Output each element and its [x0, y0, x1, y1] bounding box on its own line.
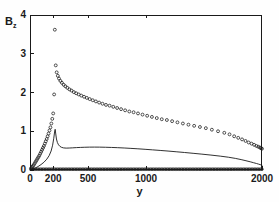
data-marker [88, 98, 91, 101]
data-line [30, 129, 262, 170]
data-marker [52, 112, 55, 115]
data-marker [132, 111, 135, 114]
y-tick-mark [30, 92, 34, 93]
data-marker [85, 96, 88, 99]
data-marker [146, 114, 149, 117]
data-marker [101, 102, 104, 105]
data-marker [53, 28, 56, 31]
data-marker [210, 128, 213, 131]
series-solid-line-lower [30, 129, 262, 170]
data-marker [116, 107, 119, 110]
y-tick-label: 4 [14, 10, 26, 20]
data-marker [150, 115, 153, 118]
x-tick-label: 1000 [135, 174, 157, 184]
data-marker [160, 118, 163, 121]
data-layer [0, 0, 279, 202]
data-marker [176, 121, 179, 124]
data-marker [155, 117, 158, 120]
data-marker [49, 126, 52, 129]
y-tick-label: 1 [14, 126, 26, 136]
data-marker [198, 126, 201, 129]
series-open-circles [29, 28, 263, 170]
x-tick-mark [146, 166, 147, 170]
data-marker [108, 104, 111, 107]
data-marker [50, 122, 53, 125]
data-marker [51, 117, 54, 120]
data-marker [53, 93, 56, 96]
x-tick-mark-top [53, 15, 54, 18]
data-marker [124, 109, 127, 112]
y-tick-label: 3 [14, 49, 26, 59]
x-tick-mark [88, 166, 89, 170]
data-marker [47, 132, 50, 135]
data-marker [187, 123, 190, 126]
data-marker [204, 127, 207, 130]
data-marker [233, 135, 236, 138]
x-tick-label: 0 [27, 174, 33, 184]
y-tick-mark [30, 15, 34, 16]
data-marker [137, 112, 140, 115]
y-tick-label: 2 [14, 88, 26, 98]
x-tick-mark-top [88, 15, 89, 18]
data-marker [48, 129, 51, 132]
data-marker [165, 119, 168, 122]
data-marker [120, 108, 123, 111]
data-marker [171, 120, 174, 123]
x-tick-mark [53, 166, 54, 170]
data-marker [94, 100, 97, 103]
data-marker [181, 122, 184, 125]
data-marker [217, 130, 220, 133]
data-marker [98, 101, 101, 104]
x-tick-label: 2000 [251, 174, 273, 184]
data-marker [223, 131, 226, 134]
chart-svg [0, 0, 279, 202]
x-tick-mark [262, 166, 263, 170]
data-marker [105, 103, 108, 106]
y-tick-mark [30, 131, 34, 132]
data-marker [128, 110, 131, 113]
data-marker [55, 71, 58, 74]
data-marker [237, 136, 240, 139]
data-marker [141, 113, 144, 116]
figure-panel: Bz 01234 020050010002000 y [0, 0, 279, 202]
x-tick-mark [30, 166, 31, 170]
x-tick-mark-top [146, 15, 147, 18]
data-marker [247, 141, 250, 144]
data-marker [244, 139, 247, 142]
y-tick-label: 0 [14, 165, 26, 175]
data-marker [241, 138, 244, 141]
data-marker [193, 124, 196, 127]
y-tick-mark [30, 53, 34, 54]
data-marker [54, 64, 57, 67]
data-marker [91, 99, 94, 102]
x-tick-label: 200 [45, 174, 62, 184]
data-marker [228, 133, 231, 136]
data-marker [112, 105, 115, 108]
x-tick-label: 500 [80, 174, 97, 184]
x-axis-label: y [0, 186, 279, 197]
